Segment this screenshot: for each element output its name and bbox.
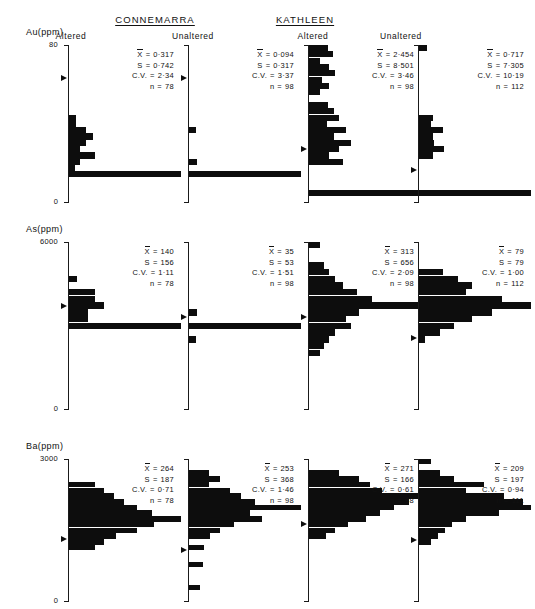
- histogram-bar: [189, 585, 200, 590]
- histogram-bar: [419, 510, 499, 515]
- stat-mean-row: X=209: [446, 464, 524, 475]
- histogram-bar: [309, 127, 346, 133]
- mean-marker: [301, 314, 307, 320]
- stat-mean-label: X: [145, 247, 150, 258]
- stat-mean-label: X: [257, 50, 262, 61]
- stat-sd-row: S=0·742: [96, 61, 174, 72]
- histogram-bar: [69, 121, 76, 127]
- histogram-bar: [189, 323, 301, 329]
- histogram-bar: [309, 289, 357, 295]
- axis-tick-top: [184, 459, 189, 460]
- histogram-bar: [69, 171, 181, 177]
- histogram-bar: [309, 89, 320, 95]
- stat-sd-label: S: [385, 258, 390, 269]
- histogram-bar: [419, 470, 440, 475]
- stats-block-ba-kathleen_altered: X=271S=166C.V.=0·61n=98: [336, 464, 414, 506]
- stat-cv-row: C.V.=3·37: [216, 71, 294, 82]
- stat-n-row: n=78: [96, 279, 174, 290]
- histogram-bar: [309, 140, 351, 146]
- axis-tick-top-au: 80: [14, 40, 58, 49]
- histogram-bar: [189, 127, 196, 133]
- stat-n-label: n: [270, 496, 274, 507]
- histogram-bar: [419, 296, 502, 302]
- histogram-bar: [189, 470, 209, 475]
- stat-n-value: 98: [285, 82, 294, 91]
- histogram-bar: [189, 522, 234, 527]
- stat-n-row: n=98: [336, 82, 414, 93]
- histogram-bar: [69, 482, 95, 487]
- mean-marker: [181, 314, 187, 320]
- stat-cv-row: C.V.=2·09: [336, 268, 414, 279]
- histogram-bar: [189, 516, 262, 521]
- stats-block-au-kathleen_altered: X=2·454S=8·501C.V.=3·46n=98: [336, 50, 414, 92]
- stat-sd-row: S=0·317: [216, 61, 294, 72]
- stat-sd-row: S=53: [216, 258, 294, 269]
- stat-mean-label: X: [265, 464, 270, 475]
- histogram-bar: [309, 329, 335, 335]
- stat-sd-label: S: [145, 258, 150, 269]
- axis-line: [188, 45, 189, 203]
- stat-n-label: n: [497, 496, 501, 507]
- stat-cv-row: C.V.=1·11: [96, 268, 174, 279]
- stat-mean-label: X: [499, 247, 504, 258]
- stat-cv-row: C.V.=3·46: [336, 71, 414, 82]
- histogram-bar: [309, 121, 327, 127]
- equals-sign: =: [270, 485, 275, 494]
- histogram-bar: [309, 336, 329, 342]
- stat-mean-value: 253: [281, 464, 294, 473]
- histogram-bar: [69, 510, 152, 515]
- axis-tick-bottom: [414, 601, 419, 602]
- stat-cv-label: C.V.: [132, 485, 147, 496]
- equals-sign: =: [503, 279, 508, 288]
- stats-block-ba-connemarra_altered: X=264S=187C.V.=0·71n=78: [96, 464, 174, 506]
- equals-sign: =: [507, 258, 512, 267]
- stat-n-value: 112: [511, 279, 524, 288]
- histogram-bar: [309, 302, 421, 308]
- axis-tick-top-ba: 3000: [14, 454, 58, 463]
- histogram-bar: [69, 152, 95, 158]
- histogram-bar: [419, 146, 444, 152]
- equals-sign: =: [496, 61, 501, 70]
- stat-mean-value: 271: [401, 464, 414, 473]
- stat-sd-row: S=197: [446, 475, 524, 486]
- histogram-bar: [419, 539, 431, 544]
- histogram-bar: [419, 152, 433, 158]
- axis-tick-bottom: [184, 202, 189, 203]
- histogram-bar: [419, 459, 431, 464]
- axis-tick-top: [64, 45, 69, 46]
- axis-tick-bottom: [64, 601, 69, 602]
- equals-sign: =: [266, 61, 271, 70]
- stat-sd-label: S: [269, 258, 274, 269]
- stat-cv-value: 1·46: [278, 485, 294, 494]
- stat-cv-row: C.V.=0·61: [336, 485, 414, 496]
- equals-sign: =: [273, 475, 278, 484]
- histogram-bar: [69, 133, 93, 139]
- stat-cv-row: C.V.=1·46: [216, 485, 294, 496]
- equals-sign: =: [386, 61, 391, 70]
- mean-marker: [181, 75, 187, 81]
- stat-mean-value: 0·094: [273, 50, 294, 59]
- histogram-bar: [419, 127, 443, 133]
- stat-cv-row: C.V.=0·71: [96, 485, 174, 496]
- equals-sign: =: [397, 82, 402, 91]
- mean-marker: [61, 536, 67, 542]
- stat-cv-label: C.V.: [372, 71, 387, 82]
- equals-sign: =: [390, 485, 395, 494]
- stat-sd-value: 8·501: [393, 61, 414, 70]
- stat-mean-label: X: [377, 50, 382, 61]
- axis-tick-bottom: [64, 409, 69, 410]
- mean-marker: [181, 547, 187, 553]
- stat-n-label: n: [150, 82, 154, 93]
- stat-cv-value: 10·19: [503, 71, 524, 80]
- histogram-bar: [309, 83, 329, 89]
- column-header-connemarra_unaltered: Unaltered: [158, 31, 228, 41]
- equals-sign: =: [270, 71, 275, 80]
- axis-label-ba: Ba(ppm): [26, 441, 63, 451]
- histogram-bar: [309, 58, 320, 64]
- equals-sign: =: [393, 247, 398, 256]
- stat-mean-row: X=0·094: [216, 50, 294, 61]
- mean-marker: [411, 537, 417, 543]
- equals-sign: =: [146, 50, 151, 59]
- stat-sd-value: 79: [515, 258, 524, 267]
